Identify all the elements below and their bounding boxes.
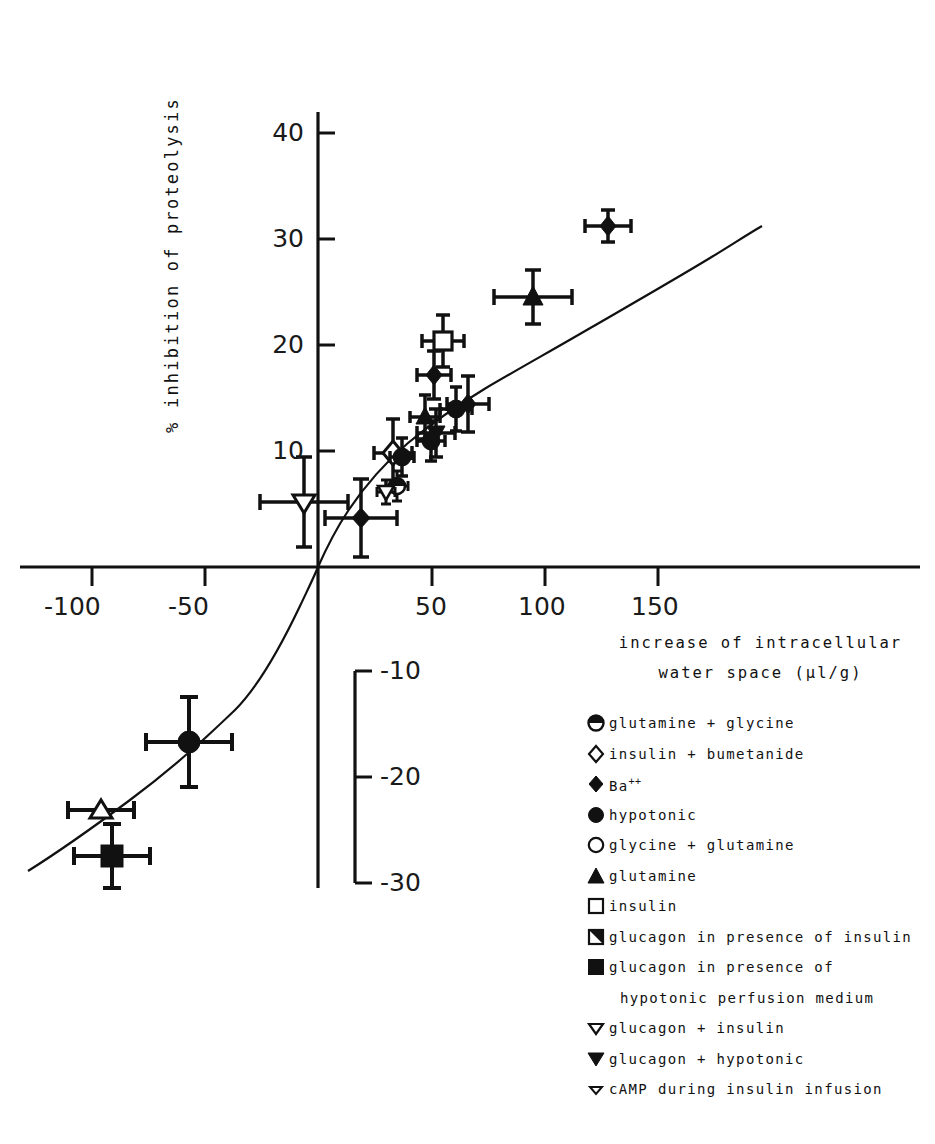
legend-label: cAMP during insulin infusion <box>609 1081 883 1097</box>
x-axis-label: increase of intracellular water space (µ… <box>586 628 935 688</box>
legend-label: glucagon + insulin <box>609 1020 785 1036</box>
half-filled-circle-top-icon <box>586 713 606 733</box>
legend-item-glutamine[interactable]: glutamine <box>586 861 935 892</box>
half-filled-square-icon <box>586 927 606 947</box>
y-tick-neg30: -30 <box>380 868 421 897</box>
small-open-triangle-down-icon <box>586 1079 606 1099</box>
y-tick-20: 20 <box>238 330 304 359</box>
legend-label: glutamine + glycine <box>609 715 795 731</box>
x-tick-neg50: -50 <box>168 592 209 621</box>
filled-triangle-down-icon <box>586 1049 606 1069</box>
legend-label: insulin <box>609 898 677 914</box>
x-axis-label-line1: increase of intracellular <box>619 634 902 652</box>
y-tick-10: 10 <box>238 436 304 465</box>
legend-item-camp-insulin-infusion[interactable]: cAMP during insulin infusion <box>586 1074 935 1105</box>
data-point <box>585 210 631 242</box>
legend-label: glucagon + hypotonic <box>609 1051 805 1067</box>
open-triangle-down-icon <box>586 1018 606 1038</box>
y-tick-40: 40 <box>238 118 304 147</box>
data-point <box>146 697 232 787</box>
y-axis-ticks <box>318 133 372 883</box>
x-axis-label-line2: water space (µl/g) <box>586 658 935 688</box>
figure-root: % inhibition of proteolysis 40 30 20 10 … <box>0 0 935 1144</box>
legend-items: glutamine + glycine insulin + bumetanide… <box>586 708 935 1105</box>
data-points <box>68 210 631 888</box>
legend: increase of intracellular water space (µ… <box>586 628 935 1105</box>
legend-item-glucagon-insulin-presence[interactable]: glucagon in presence of insulin <box>586 922 935 953</box>
y-tick-neg20: -20 <box>380 762 421 791</box>
y-axis-label: % inhibition of proteolysis <box>162 85 182 445</box>
x-tick-100: 100 <box>518 592 566 621</box>
legend-item-glutamine-glycine[interactable]: glutamine + glycine <box>586 708 935 739</box>
legend-superscript: ++ <box>629 776 642 787</box>
filled-circle-icon <box>586 805 606 825</box>
y-tick-neg10: -10 <box>380 656 421 685</box>
legend-item-glucagon-hypotonic-presence[interactable]: glucagon in presence of <box>586 952 935 983</box>
open-circle-icon <box>586 835 606 855</box>
legend-item-insulin[interactable]: insulin <box>586 891 935 922</box>
legend-item-glucagon-plus-insulin[interactable]: glucagon + insulin <box>586 1013 935 1044</box>
open-square-icon <box>586 896 606 916</box>
legend-label: Ba++ <box>609 774 642 794</box>
legend-label: hypotonic perfusion medium <box>620 990 874 1006</box>
filled-square-icon <box>586 957 606 977</box>
data-point <box>494 270 572 324</box>
data-point <box>417 351 451 399</box>
legend-item-insulin-bumetanide[interactable]: insulin + bumetanide <box>586 739 935 770</box>
filled-triangle-up-icon <box>586 866 606 886</box>
legend-item-glycine-glutamine[interactable]: glycine + glutamine <box>586 830 935 861</box>
legend-label: glycine + glutamine <box>609 837 795 853</box>
legend-label: insulin + bumetanide <box>609 746 805 762</box>
legend-label: hypotonic <box>609 807 697 823</box>
x-tick-neg100: -100 <box>44 592 101 621</box>
legend-label: glutamine <box>609 868 697 884</box>
data-point <box>68 800 134 819</box>
filled-diamond-icon <box>586 774 606 794</box>
x-tick-50: 50 <box>415 592 447 621</box>
open-diamond-icon <box>586 744 606 764</box>
y-tick-30: 30 <box>238 224 304 253</box>
legend-item-glucagon-hypotonic-presence-cont: hypotonic perfusion medium <box>586 983 935 1014</box>
legend-item-hypotonic[interactable]: hypotonic <box>586 800 935 831</box>
x-tick-150: 150 <box>631 592 679 621</box>
data-point <box>422 315 464 367</box>
legend-label: glucagon in presence of insulin <box>609 929 912 945</box>
x-axis-ticks <box>92 567 658 586</box>
legend-item-ba[interactable]: Ba++ <box>586 769 935 800</box>
legend-label: glucagon in presence of <box>609 959 834 975</box>
legend-item-glucagon-plus-hypotonic[interactable]: glucagon + hypotonic <box>586 1044 935 1075</box>
